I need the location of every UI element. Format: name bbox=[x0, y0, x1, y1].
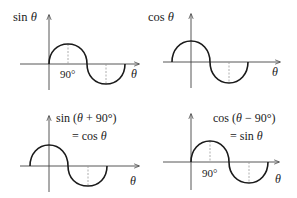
tick-label-90: 90° bbox=[60, 69, 75, 80]
eq-part: − 90°) bbox=[242, 111, 276, 125]
panel-sin-shift bbox=[20, 116, 139, 192]
eq-part: = cos bbox=[72, 129, 101, 143]
func-name: cos bbox=[148, 10, 165, 24]
x-axis-label-theta: θ bbox=[130, 175, 136, 187]
eq-part: sin ( bbox=[56, 111, 77, 125]
equation-equals-sin: = sin θ bbox=[230, 130, 263, 142]
eq-part: + 90°) bbox=[83, 111, 117, 125]
theta-symbol: θ bbox=[257, 129, 263, 143]
eq-part: cos ( bbox=[213, 111, 236, 125]
equation-equals-cos: = cos θ bbox=[72, 130, 107, 142]
panel-cos-shift bbox=[163, 114, 279, 190]
theta-symbol: θ bbox=[31, 10, 37, 24]
x-axis-label-theta: θ bbox=[275, 173, 281, 185]
x-axis-label-theta: θ bbox=[272, 66, 278, 78]
panel-cos bbox=[163, 14, 280, 88]
func-name: sin bbox=[13, 10, 28, 24]
shifted-sine-curve bbox=[30, 145, 107, 186]
y-axis-label-cos: cos θ bbox=[148, 11, 174, 24]
panel-sin bbox=[20, 15, 139, 90]
equation-cos-shift: cos (θ − 90°) bbox=[213, 112, 275, 124]
eq-part: = sin bbox=[230, 129, 257, 143]
theta-symbol: θ bbox=[101, 129, 107, 143]
equation-sin-shift: sin (θ + 90°) bbox=[56, 112, 116, 124]
tick-label-90: 90° bbox=[202, 168, 217, 179]
trig-shift-diagram bbox=[0, 0, 297, 198]
y-axis-label-sin: sin θ bbox=[13, 11, 37, 24]
x-axis-label-theta: θ bbox=[131, 68, 137, 80]
theta-symbol: θ bbox=[168, 10, 174, 24]
